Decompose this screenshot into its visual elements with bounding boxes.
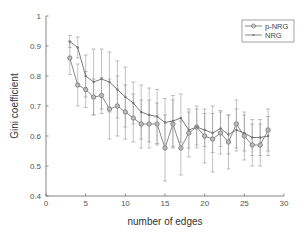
x-tick-label: 20 (200, 199, 209, 208)
data-point-circle (91, 95, 95, 99)
data-point-circle (155, 122, 159, 126)
legend-label-nrg: NRG (265, 31, 282, 40)
data-point-circle (226, 140, 230, 144)
data-point-circle (187, 131, 191, 135)
data-point-circle (147, 122, 151, 126)
data-point-circle (202, 134, 206, 138)
y-tick-label: 0.7 (30, 102, 42, 111)
data-point-dot (124, 96, 126, 98)
data-point-dot (267, 135, 269, 137)
data-point-dot (219, 127, 221, 129)
gini-coefficient-chart: 0510152025300.40.50.60.70.80.91 number o… (0, 0, 304, 236)
data-point-circle (68, 56, 72, 60)
data-point-circle (250, 143, 254, 147)
data-point-circle (179, 146, 183, 150)
data-point-dot (156, 115, 158, 117)
data-point-dot (180, 117, 182, 119)
data-point-circle (76, 83, 80, 87)
legend-dot-icon (252, 34, 254, 36)
data-point-dot (92, 81, 94, 83)
data-point-circle (258, 143, 262, 147)
data-point-dot (235, 129, 237, 131)
data-markers (68, 40, 271, 150)
x-tick-label: 10 (121, 199, 130, 208)
data-point-dot (251, 136, 253, 138)
y-axis-label: Gini coefficient (9, 73, 20, 139)
x-tick-label: 25 (240, 199, 249, 208)
data-point-dot (140, 111, 142, 113)
data-point-circle (242, 134, 246, 138)
data-point-dot (132, 102, 134, 104)
legend-label-p-nrg: p-NRG (265, 22, 289, 31)
data-point-dot (196, 126, 198, 128)
data-point-dot (243, 132, 245, 134)
data-point-circle (115, 104, 119, 108)
data-point-dot (100, 78, 102, 80)
data-point-dot (259, 136, 261, 138)
data-point-dot (77, 46, 79, 48)
y-tick-label: 0.5 (30, 162, 42, 171)
y-tick-label: 0.8 (30, 72, 42, 81)
data-point-circle (107, 107, 111, 111)
data-point-dot (172, 120, 174, 122)
data-point-dot (227, 133, 229, 135)
series-line-p-nrg (70, 58, 268, 148)
x-tick-label: 5 (83, 199, 88, 208)
legend: p-NRG NRG (242, 20, 294, 42)
data-point-circle (99, 93, 103, 97)
data-point-dot (108, 81, 110, 83)
x-tick-label: 15 (161, 199, 170, 208)
data-point-circle (234, 122, 238, 126)
data-point-circle (171, 122, 175, 126)
data-point-dot (164, 121, 166, 123)
data-point-circle (218, 131, 222, 135)
data-point-circle (139, 122, 143, 126)
data-point-circle (163, 146, 167, 150)
data-point-dot (211, 132, 213, 134)
y-tick-label: 1 (37, 12, 42, 21)
data-point-dot (69, 40, 71, 42)
x-tick-label: 0 (44, 199, 49, 208)
data-point-dot (203, 129, 205, 131)
data-point-dot (116, 88, 118, 90)
data-point-dot (188, 129, 190, 131)
y-tick-label: 0.6 (30, 132, 42, 141)
error-bars (68, 36, 270, 182)
data-point-circle (266, 128, 270, 132)
data-point-dot (148, 114, 150, 116)
data-point-circle (210, 137, 214, 141)
data-point-circle (83, 87, 87, 91)
x-tick-label: 30 (280, 199, 289, 208)
y-tick-label: 0.4 (30, 192, 42, 201)
x-axis-label: number of edges (127, 216, 202, 227)
data-point-dot (84, 75, 86, 77)
y-tick-label: 0.9 (30, 42, 42, 51)
data-point-circle (131, 116, 135, 120)
data-point-circle (123, 110, 127, 114)
